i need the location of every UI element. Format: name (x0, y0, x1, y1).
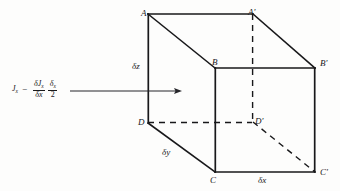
edge-Aprime-Bprime (253, 14, 315, 68)
flux-arrow (70, 88, 182, 94)
derivative-numerator-subscript: x (41, 84, 43, 90)
vertex-label-D-prime: D' (255, 117, 263, 126)
vertex-label-B-prime: B' (320, 59, 327, 68)
vertex-label-A-prime: A' (248, 8, 255, 17)
dimension-label-delta-x: δx (258, 176, 266, 185)
half-numerator: δx (48, 80, 57, 89)
half-denominator: 2 (49, 91, 56, 99)
edge-D-C (148, 123, 215, 172)
derivative-numerator: δJx (33, 80, 46, 89)
flux-minus-operator: − (22, 85, 27, 94)
vertex-label-D: D (138, 118, 145, 127)
vertex-label-A: A (141, 9, 147, 18)
dimension-label-delta-z: δz (132, 62, 140, 71)
edge-Dprime-Cprime-hidden (253, 122, 315, 172)
flux-expression: Jx − δJx δx δx 2 (12, 80, 59, 100)
dimension-label-delta-y: δy (162, 148, 170, 157)
flux-cuboid-figure: A A' B B' D D' C C' δz δy δx Jx − δJx δx… (0, 0, 340, 191)
edge-A-B (148, 14, 215, 68)
vertex-label-B: B (212, 58, 218, 67)
flux-symbol: Jx (12, 85, 18, 94)
derivative-fraction: δJx δx (33, 80, 46, 100)
half-fraction: δx 2 (48, 80, 57, 100)
derivative-denominator: δx (34, 91, 44, 99)
half-numerator-subscript: x (53, 84, 55, 90)
flux-symbol-subscript: x (16, 89, 18, 94)
vertex-label-C: C (210, 176, 216, 185)
vertex-label-C-prime: C' (320, 168, 328, 177)
